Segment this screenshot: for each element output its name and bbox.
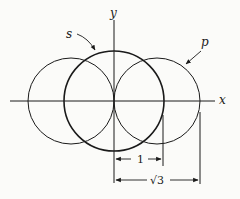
dimension-sqrt3-label: √3 — [150, 174, 164, 187]
p-label: p — [201, 35, 209, 49]
orbital-diagram: s p y x 1 √3 — [0, 0, 240, 199]
s-label: s — [66, 27, 72, 41]
y-axis-label: y — [109, 6, 117, 20]
dimension-1-label: 1 — [137, 153, 144, 166]
s-pointer-arrow — [77, 34, 95, 50]
x-axis-label: x — [219, 93, 226, 107]
p-pointer-arrow — [186, 51, 201, 64]
